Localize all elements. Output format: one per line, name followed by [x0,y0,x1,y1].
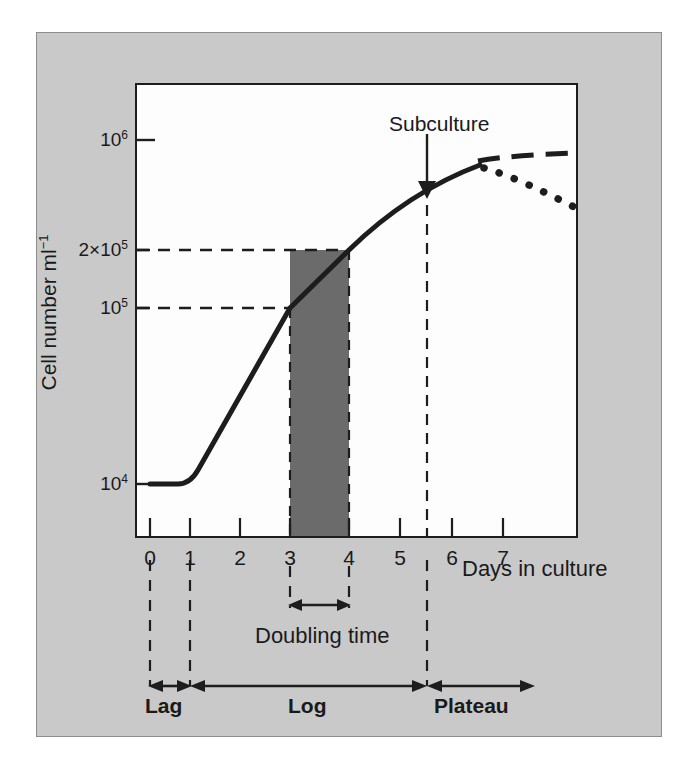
ytick-label-1e5-mantissa: 10 [100,297,121,318]
doubling-time-label: Doubling time [255,623,390,649]
xtick-label-3: 3 [275,546,305,570]
y-axis-title-text: Cell number ml [37,249,60,390]
ytick-label-1e6-mantissa: 10 [100,129,121,150]
ytick-label-1e5-exponent: 5 [121,296,128,310]
xtick-label-0: 0 [135,546,165,570]
ytick-label-2e5: 2×105 [28,238,128,261]
xtick-label-4: 4 [334,546,364,570]
x-axis-title: Days in culture [462,556,608,582]
ytick-label-1e4: 104 [28,472,128,495]
subculture-label: Subculture [389,112,489,136]
xtick-label-1: 1 [175,546,205,570]
xtick-label-5: 5 [385,546,415,570]
xtick-label-2: 2 [225,546,255,570]
figure-container: Cell number ml−1 106 2×105 105 104 0 1 2… [0,0,696,783]
ytick-label-1e4-mantissa: 10 [100,473,121,494]
plot-area [135,83,578,538]
phase-label-log: Log [288,694,326,718]
phase-label-plateau: Plateau [434,694,509,718]
ytick-label-1e6: 106 [28,128,128,151]
phase-label-lag: Lag [145,694,182,718]
ytick-label-2e5-mantissa: 2×10 [79,239,122,260]
ytick-label-1e4-exponent: 4 [121,472,128,486]
ytick-label-1e6-exponent: 6 [121,128,128,142]
ytick-label-2e5-exponent: 5 [121,238,128,252]
ytick-label-1e5: 105 [28,296,128,319]
